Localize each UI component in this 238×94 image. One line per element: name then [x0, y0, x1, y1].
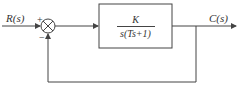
plus-sign: +	[37, 15, 43, 25]
fraction-bar	[117, 26, 155, 27]
transfer-function: K s(Ts+1)	[99, 4, 172, 48]
summing-junction	[41, 19, 55, 33]
transfer-function-denominator: s(Ts+1)	[118, 28, 153, 39]
transfer-function-numerator: K	[130, 14, 141, 25]
minus-sign: −	[39, 33, 45, 43]
output-label: C(s)	[209, 13, 228, 24]
input-label: R(s)	[6, 13, 24, 24]
